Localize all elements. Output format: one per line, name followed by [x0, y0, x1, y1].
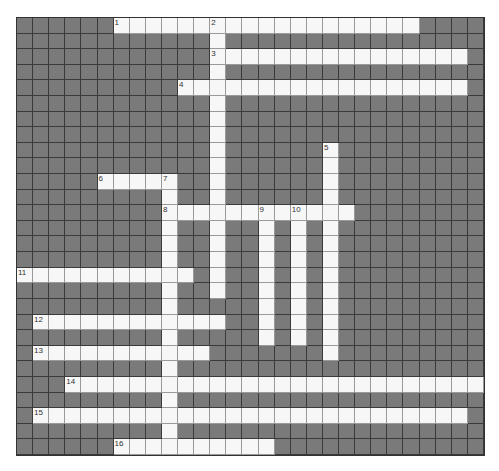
crossword-cell[interactable]: [178, 205, 194, 221]
crossword-cell[interactable]: [194, 315, 210, 331]
crossword-cell[interactable]: [323, 377, 339, 393]
crossword-cell[interactable]: [259, 268, 275, 284]
crossword-cell[interactable]: [259, 80, 275, 96]
crossword-cell[interactable]: [339, 408, 355, 424]
crossword-cell[interactable]: [291, 377, 307, 393]
crossword-cell[interactable]: 15: [33, 408, 49, 424]
crossword-cell[interactable]: [339, 205, 355, 221]
crossword-cell[interactable]: [452, 80, 468, 96]
crossword-cell[interactable]: [307, 205, 323, 221]
crossword-cell[interactable]: [226, 408, 242, 424]
crossword-cell[interactable]: [259, 221, 275, 237]
crossword-cell[interactable]: [452, 49, 468, 65]
crossword-cell[interactable]: [162, 315, 178, 331]
crossword-cell[interactable]: 12: [33, 315, 49, 331]
crossword-cell[interactable]: [65, 408, 81, 424]
crossword-cell[interactable]: [275, 408, 291, 424]
crossword-cell[interactable]: [323, 408, 339, 424]
crossword-cell[interactable]: [387, 49, 403, 65]
crossword-cell[interactable]: [307, 377, 323, 393]
crossword-cell[interactable]: [162, 236, 178, 252]
crossword-cell[interactable]: [371, 80, 387, 96]
crossword-cell[interactable]: [436, 80, 452, 96]
crossword-cell[interactable]: [323, 283, 339, 299]
crossword-cell[interactable]: [114, 315, 130, 331]
crossword-cell[interactable]: [130, 268, 146, 284]
crossword-cell[interactable]: [146, 377, 162, 393]
crossword-cell[interactable]: 16: [114, 439, 130, 455]
crossword-cell[interactable]: [178, 315, 194, 331]
crossword-cell[interactable]: [114, 174, 130, 190]
crossword-cell[interactable]: [291, 299, 307, 315]
crossword-cell[interactable]: [210, 96, 226, 112]
crossword-cell[interactable]: [242, 49, 258, 65]
crossword-cell[interactable]: [210, 315, 226, 331]
crossword-cell[interactable]: [210, 205, 226, 221]
crossword-cell[interactable]: [146, 174, 162, 190]
crossword-cell[interactable]: [194, 377, 210, 393]
crossword-cell[interactable]: [130, 174, 146, 190]
crossword-cell[interactable]: [242, 205, 258, 221]
crossword-cell[interactable]: [130, 18, 146, 34]
crossword-cell[interactable]: [291, 268, 307, 284]
crossword-cell[interactable]: [387, 80, 403, 96]
crossword-cell[interactable]: [323, 299, 339, 315]
crossword-cell[interactable]: [194, 18, 210, 34]
crossword-cell[interactable]: [162, 377, 178, 393]
crossword-cell[interactable]: 10: [291, 205, 307, 221]
crossword-cell[interactable]: [65, 268, 81, 284]
crossword-cell[interactable]: [162, 330, 178, 346]
crossword-cell[interactable]: [339, 80, 355, 96]
crossword-cell[interactable]: [33, 268, 49, 284]
crossword-cell[interactable]: [323, 252, 339, 268]
crossword-cell[interactable]: [323, 268, 339, 284]
crossword-cell[interactable]: [130, 377, 146, 393]
crossword-cell[interactable]: [65, 315, 81, 331]
crossword-cell[interactable]: [339, 377, 355, 393]
crossword-cell[interactable]: [291, 330, 307, 346]
crossword-cell[interactable]: [420, 80, 436, 96]
crossword-cell[interactable]: 1: [114, 18, 130, 34]
crossword-cell[interactable]: [323, 205, 339, 221]
crossword-cell[interactable]: [81, 377, 97, 393]
crossword-cell[interactable]: [49, 346, 65, 362]
crossword-cell[interactable]: [387, 408, 403, 424]
crossword-cell[interactable]: [226, 49, 242, 65]
crossword-cell[interactable]: [387, 377, 403, 393]
crossword-cell[interactable]: [259, 18, 275, 34]
crossword-cell[interactable]: [178, 346, 194, 362]
crossword-cell[interactable]: [210, 34, 226, 50]
crossword-cell[interactable]: [178, 377, 194, 393]
crossword-cell[interactable]: [210, 65, 226, 81]
crossword-cell[interactable]: [146, 346, 162, 362]
crossword-cell[interactable]: [339, 49, 355, 65]
crossword-cell[interactable]: [259, 49, 275, 65]
crossword-cell[interactable]: 8: [162, 205, 178, 221]
crossword-cell[interactable]: [162, 424, 178, 440]
crossword-cell[interactable]: [49, 408, 65, 424]
crossword-cell[interactable]: [468, 377, 484, 393]
crossword-cell[interactable]: [178, 268, 194, 284]
crossword-cell[interactable]: [65, 346, 81, 362]
crossword-cell[interactable]: [210, 221, 226, 237]
crossword-cell[interactable]: [130, 408, 146, 424]
crossword-cell[interactable]: [178, 408, 194, 424]
crossword-cell[interactable]: [387, 18, 403, 34]
crossword-cell[interactable]: [291, 252, 307, 268]
crossword-cell[interactable]: [291, 49, 307, 65]
crossword-cell[interactable]: [452, 377, 468, 393]
crossword-cell[interactable]: [259, 252, 275, 268]
crossword-cell[interactable]: [275, 49, 291, 65]
crossword-cell[interactable]: [162, 439, 178, 455]
crossword-cell[interactable]: [210, 174, 226, 190]
crossword-cell[interactable]: [242, 377, 258, 393]
crossword-cell[interactable]: [162, 346, 178, 362]
crossword-cell[interactable]: [259, 236, 275, 252]
crossword-cell[interactable]: [81, 268, 97, 284]
crossword-cell[interactable]: [259, 377, 275, 393]
crossword-cell[interactable]: [307, 49, 323, 65]
crossword-cell[interactable]: [371, 408, 387, 424]
crossword-cell[interactable]: [275, 18, 291, 34]
crossword-cell[interactable]: [355, 49, 371, 65]
crossword-cell[interactable]: [323, 221, 339, 237]
